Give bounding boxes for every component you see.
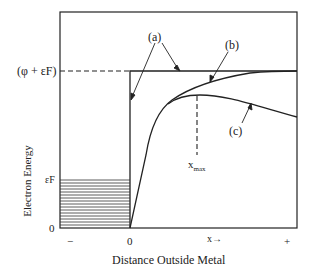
x-zero-label: 0 [127, 236, 133, 247]
curve-a-label: (a) [148, 31, 161, 43]
x-minus-label: − [67, 236, 73, 247]
curve-a-step [130, 71, 297, 228]
plot-frame [60, 12, 297, 228]
fermi-sea-hatching [60, 180, 130, 225]
curve-c [168, 95, 297, 117]
fermi-level-label: εF [45, 175, 55, 185]
y-zero-label: 0 [49, 223, 55, 234]
label-c-arrow [242, 103, 252, 123]
y-axis-title: Electron Energy [21, 145, 33, 217]
curve-b-label: (b) [225, 39, 239, 51]
x-arrow-label: x→ [207, 234, 222, 244]
work-function-label: (φ + εF) [17, 65, 56, 77]
curve-b [130, 71, 297, 228]
x-plus-label: + [284, 236, 290, 247]
xmax-label: xmax [188, 159, 206, 173]
curve-c-label: (c) [229, 125, 242, 137]
x-axis-title: Distance Outside Metal [112, 254, 225, 266]
xmax-subscript: max [194, 165, 206, 173]
